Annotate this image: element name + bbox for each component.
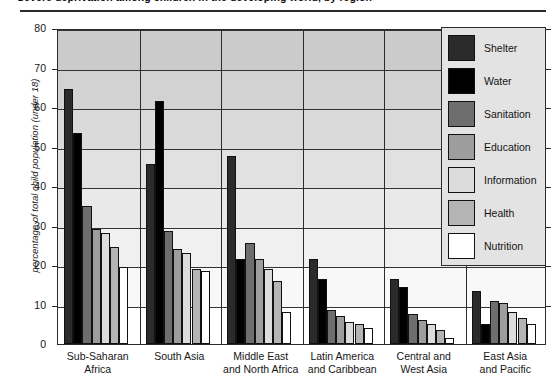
- legend-item: Nutrition: [448, 231, 544, 261]
- group-separator: [140, 30, 141, 344]
- legend-swatch: [448, 200, 475, 226]
- x-group-label-line: East Asia: [453, 350, 554, 363]
- y-tick-mark-right: [546, 29, 551, 30]
- bar: [527, 324, 536, 344]
- legend-item: Information: [448, 165, 544, 195]
- bar: [101, 233, 110, 344]
- bar: [345, 322, 354, 344]
- y-tick-label: 60: [0, 101, 46, 113]
- bar: [318, 279, 327, 344]
- bar: [336, 316, 345, 344]
- bar: [236, 259, 245, 344]
- bar: [110, 247, 119, 344]
- chart-legend: ShelterWaterSanitationEducationInformati…: [441, 27, 546, 266]
- legend-item: Sanitation: [448, 99, 544, 129]
- bar: [82, 206, 91, 344]
- legend-swatch: [448, 101, 475, 127]
- bar: [164, 231, 173, 344]
- bar: [490, 301, 499, 344]
- bar: [182, 253, 191, 344]
- legend-swatch: [448, 35, 475, 61]
- legend-label: Health: [484, 207, 514, 219]
- y-tick-label: 70: [0, 62, 46, 74]
- bar: [436, 330, 445, 344]
- bar: [472, 291, 481, 344]
- bar: [273, 281, 282, 344]
- bar: [255, 259, 264, 344]
- bar: [364, 328, 373, 344]
- gridline: [58, 267, 545, 268]
- y-tick-mark-right: [546, 69, 551, 70]
- legend-item: Water: [448, 66, 544, 96]
- bar: [418, 320, 427, 344]
- legend-item: Shelter: [448, 33, 544, 63]
- bar: [518, 318, 527, 344]
- bar: [173, 249, 182, 344]
- legend-item: Education: [448, 132, 544, 162]
- bar: [445, 338, 454, 344]
- x-group-label-line: Africa: [45, 363, 151, 376]
- bar: [245, 243, 254, 344]
- chart-figure: Severe deprivation among children in the…: [0, 0, 554, 379]
- y-tick-label: 10: [0, 299, 46, 311]
- bar: [508, 312, 517, 344]
- bar: [119, 267, 128, 344]
- bar: [201, 271, 210, 344]
- title-divider: [20, 10, 546, 12]
- bar: [499, 303, 508, 344]
- y-tick-mark-right: [546, 148, 551, 149]
- y-tick-mark-right: [546, 306, 551, 307]
- legend-swatch: [448, 134, 475, 160]
- group-separator: [384, 30, 385, 344]
- bar: [64, 89, 73, 344]
- bar: [390, 279, 399, 344]
- y-tick-label: 50: [0, 141, 46, 153]
- bar: [282, 312, 291, 344]
- y-tick-mark-right: [546, 108, 551, 109]
- y-tick-mark-right: [546, 187, 551, 188]
- y-tick-label: 80: [0, 22, 46, 34]
- chart-title: Severe deprivation among children in the…: [17, 0, 372, 3]
- bar: [155, 101, 164, 344]
- x-group-label-line: and Pacific: [453, 363, 554, 376]
- bar: [146, 164, 155, 344]
- group-separator: [221, 30, 222, 344]
- legend-label: Shelter: [484, 42, 517, 54]
- x-group-label: East Asiaand Pacific: [453, 350, 554, 375]
- y-tick-label: 20: [0, 259, 46, 271]
- group-separator: [303, 30, 304, 344]
- legend-label: Water: [484, 75, 512, 87]
- y-tick-label: 40: [0, 180, 46, 192]
- legend-swatch: [448, 68, 475, 94]
- y-tick-mark-right: [546, 266, 551, 267]
- y-tick-label: 0: [0, 338, 46, 350]
- legend-item: Health: [448, 198, 544, 228]
- legend-label: Education: [484, 141, 531, 153]
- bar: [73, 133, 82, 344]
- bar: [355, 324, 364, 344]
- bar: [192, 269, 201, 344]
- bar: [481, 324, 490, 344]
- legend-label: Sanitation: [484, 108, 531, 120]
- legend-label: Information: [484, 174, 537, 186]
- bar: [92, 229, 101, 344]
- bar: [327, 310, 336, 344]
- bar: [427, 324, 436, 344]
- y-tick-label: 30: [0, 220, 46, 232]
- legend-label: Nutrition: [484, 240, 523, 252]
- bar: [399, 287, 408, 344]
- legend-swatch: [448, 233, 475, 259]
- bar: [264, 269, 273, 344]
- bar: [309, 259, 318, 344]
- y-tick-mark-right: [546, 227, 551, 228]
- legend-swatch: [448, 167, 475, 193]
- bar: [227, 156, 236, 344]
- bar: [408, 314, 417, 344]
